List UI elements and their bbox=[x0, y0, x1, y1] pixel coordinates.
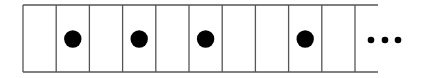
ellipsis-icon bbox=[368, 37, 402, 44]
ellipsis-dot bbox=[395, 37, 402, 44]
ellipsis-dot bbox=[368, 37, 375, 44]
dot-icon bbox=[131, 30, 148, 47]
cells-group bbox=[23, 5, 378, 72]
cell-row-diagram bbox=[0, 0, 424, 78]
dot-icon bbox=[297, 30, 314, 47]
ellipsis-dot bbox=[382, 37, 389, 44]
dot-icon bbox=[197, 30, 214, 47]
dot-icon bbox=[64, 30, 81, 47]
